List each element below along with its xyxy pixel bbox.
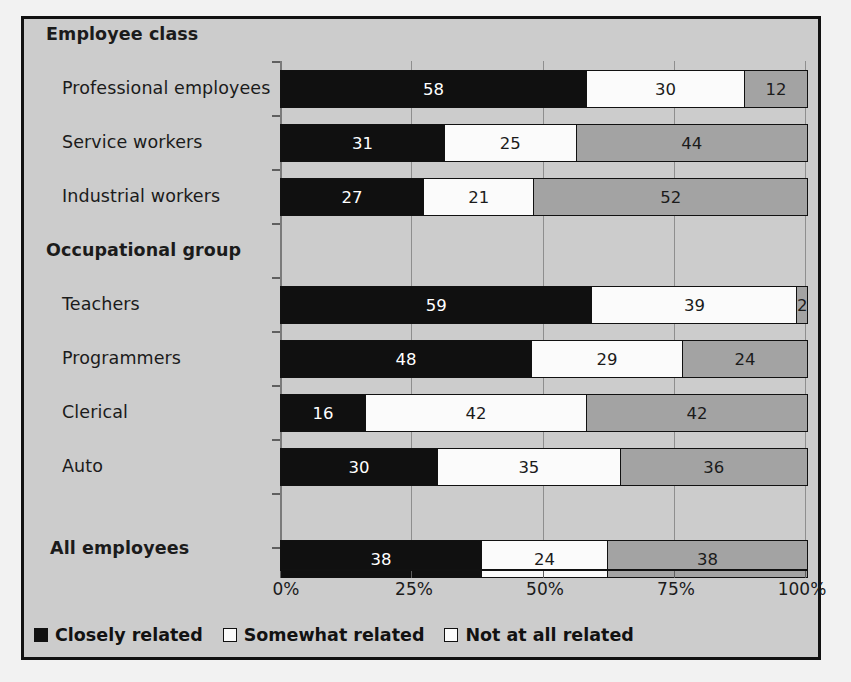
row-service-workers: Service workers 31 25 44 bbox=[24, 115, 824, 169]
row-label: All employees bbox=[24, 521, 300, 575]
bar-segment-closely[interactable]: 31 bbox=[281, 125, 444, 161]
bar-segment-closely[interactable]: 58 bbox=[281, 71, 586, 107]
row-industrial-workers: Industrial workers 27 21 52 bbox=[24, 169, 824, 223]
x-tick bbox=[805, 571, 806, 578]
stacked-bar[interactable]: 31 25 44 bbox=[280, 124, 808, 162]
legend-label: Closely related bbox=[55, 625, 203, 645]
x-axis-label-75: 75% bbox=[657, 579, 695, 599]
bar-segment-somewhat[interactable]: 29 bbox=[531, 341, 682, 377]
x-axis-label-25: 25% bbox=[395, 579, 433, 599]
row-group-heading-employee-class: Employee class bbox=[24, 7, 824, 61]
bar-segment-closely[interactable]: 38 bbox=[281, 541, 481, 577]
legend-item-somewhat-related[interactable]: Somewhat related bbox=[223, 625, 425, 645]
bar-segment-notatall[interactable]: 24 bbox=[682, 341, 807, 377]
stacked-bar[interactable]: 27 21 52 bbox=[280, 178, 808, 216]
bar-segment-notatall[interactable]: 42 bbox=[586, 395, 807, 431]
row-label: Teachers bbox=[24, 277, 312, 331]
legend-label: Somewhat related bbox=[244, 625, 425, 645]
bar-segment-closely[interactable]: 27 bbox=[281, 179, 423, 215]
screenshot-root: Employee class Professional employees 58… bbox=[0, 0, 851, 682]
legend-swatch-icon bbox=[34, 628, 48, 642]
row-label: Occupational group bbox=[24, 223, 296, 277]
bar-segment-notatall[interactable]: 12 bbox=[744, 71, 807, 107]
row-all-employees: All employees 38 24 38 bbox=[24, 521, 824, 575]
row-group-heading-occupational-group: Occupational group bbox=[24, 223, 824, 277]
bar-segment-notatall[interactable]: 52 bbox=[533, 179, 807, 215]
bar-segment-notatall[interactable]: 36 bbox=[620, 449, 807, 485]
x-tick bbox=[543, 571, 544, 578]
chart-legend: Closely related Somewhat related Not at … bbox=[24, 615, 824, 655]
bar-segment-somewhat[interactable]: 42 bbox=[365, 395, 586, 431]
stacked-bar[interactable]: 30 35 36 bbox=[280, 448, 808, 486]
row-label: Programmers bbox=[24, 331, 312, 385]
row-label: Clerical bbox=[24, 385, 312, 439]
row-programmers: Programmers 48 29 24 bbox=[24, 331, 824, 385]
bar-segment-notatall[interactable]: 44 bbox=[576, 125, 807, 161]
row-teachers: Teachers 59 39 2 bbox=[24, 277, 824, 331]
bar-segment-notatall[interactable]: 2 bbox=[796, 287, 807, 323]
row-clerical: Clerical 16 42 42 bbox=[24, 385, 824, 439]
x-axis-label-100: 100% bbox=[778, 579, 827, 599]
row-label: Auto bbox=[24, 439, 312, 493]
bar-segment-closely[interactable]: 48 bbox=[281, 341, 531, 377]
x-axis-labels: 0% 25% 50% 75% 100% bbox=[24, 579, 824, 607]
row-professional-employees: Professional employees 58 30 12 bbox=[24, 61, 824, 115]
row-label: Employee class bbox=[24, 7, 296, 61]
x-tick bbox=[411, 571, 412, 578]
x-axis-label-0: 0% bbox=[273, 579, 300, 599]
bar-segment-closely[interactable]: 30 bbox=[281, 449, 437, 485]
x-axis-label-50: 50% bbox=[526, 579, 564, 599]
stacked-bar[interactable]: 38 24 38 bbox=[280, 540, 808, 578]
row-label: Service workers bbox=[24, 115, 312, 169]
bar-segment-closely[interactable]: 16 bbox=[281, 395, 365, 431]
row-auto: Auto 30 35 36 bbox=[24, 439, 824, 493]
chart-frame: Employee class Professional employees 58… bbox=[21, 16, 821, 660]
stacked-bar[interactable]: 48 29 24 bbox=[280, 340, 808, 378]
legend-swatch-icon bbox=[223, 628, 237, 642]
legend-item-not-at-all-related[interactable]: Not at all related bbox=[444, 625, 633, 645]
stacked-bar[interactable]: 58 30 12 bbox=[280, 70, 808, 108]
legend-item-closely-related[interactable]: Closely related bbox=[34, 625, 203, 645]
legend-label: Not at all related bbox=[465, 625, 633, 645]
bar-segment-somewhat[interactable]: 39 bbox=[591, 287, 796, 323]
stacked-bar[interactable]: 59 39 2 bbox=[280, 286, 808, 324]
row-label: Professional employees bbox=[24, 61, 312, 115]
bar-segment-somewhat[interactable]: 21 bbox=[423, 179, 533, 215]
x-tick bbox=[674, 571, 675, 578]
bar-segment-closely[interactable]: 59 bbox=[281, 287, 591, 323]
bar-segment-somewhat[interactable]: 25 bbox=[444, 125, 576, 161]
stacked-bar[interactable]: 16 42 42 bbox=[280, 394, 808, 432]
legend-swatch-icon bbox=[444, 628, 458, 642]
bar-segment-somewhat[interactable]: 35 bbox=[437, 449, 619, 485]
x-tick bbox=[280, 571, 281, 578]
bar-segment-notatall[interactable]: 38 bbox=[607, 541, 807, 577]
bar-segment-somewhat[interactable]: 30 bbox=[586, 71, 744, 107]
row-label: Industrial workers bbox=[24, 169, 312, 223]
